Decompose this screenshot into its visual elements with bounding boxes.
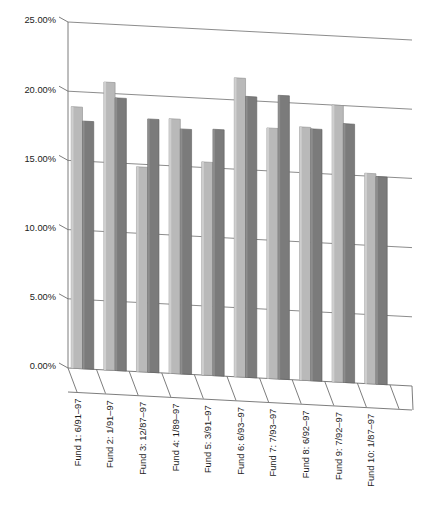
- bar-series2-highlight-6: [246, 96, 248, 377]
- bar-series1-highlight-4: [169, 119, 171, 374]
- bar-series2-highlight-8: [311, 129, 313, 381]
- gridline-25.00: [68, 22, 412, 40]
- x-tick-label-9: Fund 9: 7/92–97: [334, 412, 344, 480]
- x-tick-mark-4: [194, 375, 203, 399]
- bar-group-7: [267, 95, 289, 379]
- y-tick-label: 20.00%: [24, 85, 56, 95]
- x-axis-labels: Fund 1: 6/91–97Fund 2: 1/91–97Fund 3: 12…: [73, 399, 376, 487]
- bar-group-1: [71, 107, 93, 370]
- bar-series2-highlight-5: [213, 129, 215, 375]
- bar-series1-highlight-2: [104, 82, 106, 370]
- chart-container: 0.00%5.00%10.00%15.00%20.00%25.00%Fund 1…: [0, 0, 424, 510]
- x-tick-label-10: Fund 10: 1/87–97: [366, 414, 376, 487]
- x-tick-label-5: Fund 5: 3/91–97: [203, 405, 213, 473]
- x-tick-mark-3: [162, 373, 171, 397]
- bar-group-8: [300, 127, 322, 381]
- floor-right-edge: [412, 386, 413, 410]
- x-tick-label-3: Fund 3: 12/87–97: [138, 402, 148, 475]
- bar-series1-highlight-9: [332, 105, 334, 382]
- bar-series2-highlight-4: [180, 129, 182, 374]
- y-tick-label: 5.00%: [30, 292, 56, 302]
- bar-series1-highlight-3: [136, 167, 138, 372]
- bar-series2-highlight-3: [148, 119, 150, 372]
- bar-series1-highlight-8: [300, 127, 302, 380]
- bar-series2-highlight-1: [83, 121, 85, 369]
- y-axis-ticks: 0.00%5.00%10.00%15.00%20.00%25.00%: [24, 15, 68, 371]
- bar-series2-highlight-9: [343, 124, 345, 383]
- y-tick-mark: [59, 86, 68, 91]
- x-tick-mark-1: [97, 369, 106, 393]
- y-tick-mark: [59, 155, 68, 160]
- bar-series2-highlight-10: [376, 177, 378, 385]
- x-tick-label-2: Fund 2: 1/91–97: [105, 400, 115, 468]
- bar-series2-highlight-2: [115, 98, 117, 371]
- x-tick-mark-10: [390, 385, 399, 409]
- bar-group-4: [169, 119, 191, 375]
- x-tick-mark-5: [227, 376, 236, 400]
- y-tick-label: 15.00%: [24, 154, 56, 164]
- x-tick-label-8: Fund 8: 6/92–97: [301, 410, 311, 478]
- x-tick-mark-7: [292, 380, 301, 404]
- floor-left-edge: [68, 368, 77, 392]
- x-tick-label-7: Fund 7: 7/93–97: [268, 409, 278, 477]
- x-tick-mark-9: [357, 383, 366, 407]
- bar-group-3: [136, 119, 158, 373]
- y-tick-label: 25.00%: [24, 15, 56, 25]
- x-tick-label-4: Fund 4: 1/89–97: [171, 404, 181, 472]
- bar-chart-3d: 0.00%5.00%10.00%15.00%20.00%25.00%Fund 1…: [0, 0, 424, 510]
- y-tick-mark: [59, 363, 68, 368]
- x-tick-mark-6: [260, 378, 269, 402]
- bar-group-9: [332, 105, 354, 383]
- x-tick-label-1: Fund 1: 6/91–97: [73, 399, 83, 467]
- x-tick-label-6: Fund 6: 6/93–97: [236, 407, 246, 475]
- bar-series1-highlight-6: [234, 78, 236, 377]
- bar-series2-highlight-7: [278, 95, 280, 379]
- y-tick-mark: [59, 17, 68, 22]
- bar-group-10: [365, 173, 387, 385]
- y-tick-mark: [59, 294, 68, 299]
- y-tick-label: 0.00%: [30, 361, 56, 371]
- bar-group-6: [234, 78, 256, 378]
- bar-group-2: [104, 82, 126, 371]
- y-tick-mark: [59, 225, 68, 230]
- bars-group: [71, 78, 387, 385]
- x-tick-mark-8: [325, 381, 334, 405]
- bar-series1-highlight-7: [267, 128, 269, 379]
- bar-group-5: [202, 129, 224, 376]
- bar-series1-highlight-1: [71, 107, 73, 369]
- y-tick-label: 10.00%: [24, 223, 56, 233]
- bar-series1-highlight-10: [365, 173, 367, 383]
- bar-series1-highlight-5: [202, 162, 204, 375]
- x-tick-mark-2: [129, 371, 138, 395]
